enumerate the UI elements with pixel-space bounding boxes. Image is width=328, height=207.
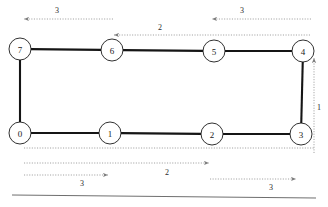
node-2-label: 2 <box>210 130 215 140</box>
dim-top-left-3-label: 3 <box>55 6 59 15</box>
node-4-label: 4 <box>301 47 306 57</box>
edge-layer <box>20 49 303 134</box>
dim-top-middle-2-label: 2 <box>158 23 162 32</box>
dim-top-middle-2: 2 <box>114 23 310 36</box>
dim-bottom-right-3: 3 <box>210 179 296 192</box>
node-0-label: 0 <box>18 129 23 139</box>
network-dimension-diagram: 3321233 76540123 <box>0 0 328 207</box>
node-1[interactable]: 1 <box>99 122 121 144</box>
dim-right-1-label: 1 <box>317 103 321 112</box>
node-7-label: 7 <box>18 45 23 55</box>
dim-top-left-3: 3 <box>24 6 113 20</box>
dim-right-1: 1 <box>314 58 321 153</box>
divider-layer <box>12 195 316 198</box>
dimension-line-layer: 3321233 <box>24 6 321 192</box>
dim-bottom-middle-2-label: 2 <box>165 168 169 177</box>
edge-6-5 <box>123 50 203 51</box>
dim-top-right-3-label: 3 <box>240 6 244 15</box>
edge-7-6 <box>31 49 101 50</box>
node-layer: 76540123 <box>9 38 314 145</box>
node-7[interactable]: 7 <box>9 38 31 60</box>
node-6[interactable]: 6 <box>101 39 123 61</box>
dim-top-right-3: 3 <box>212 6 311 20</box>
dim-bottom-middle-2: 2 <box>24 163 209 177</box>
node-2[interactable]: 2 <box>201 123 223 145</box>
node-3-label: 3 <box>299 130 304 140</box>
node-1-label: 1 <box>108 129 113 139</box>
node-5-label: 5 <box>212 47 217 57</box>
node-6-label: 6 <box>110 46 115 56</box>
node-4[interactable]: 4 <box>292 40 314 62</box>
node-5[interactable]: 5 <box>203 40 225 62</box>
edge-2-1 <box>121 133 201 134</box>
bottom-divider <box>12 195 316 198</box>
diagram-canvas: 3321233 76540123 <box>0 0 328 207</box>
dim-bottom-left-3: 3 <box>24 175 108 188</box>
dim-bottom-left-3-label: 3 <box>80 179 84 188</box>
node-0[interactable]: 0 <box>9 122 31 144</box>
dim-bottom-right-3-label: 3 <box>269 183 273 192</box>
node-3[interactable]: 3 <box>290 123 312 145</box>
edge-4-3 <box>301 62 302 123</box>
